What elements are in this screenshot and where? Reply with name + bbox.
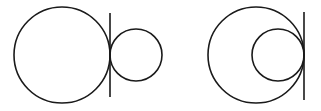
large-circle bbox=[14, 7, 110, 103]
diagram-canvas bbox=[0, 0, 321, 111]
small-circle bbox=[110, 29, 162, 81]
figure-internal-tangency bbox=[208, 7, 304, 103]
small-circle bbox=[252, 29, 304, 81]
figure-external-tangency bbox=[14, 7, 162, 103]
large-circle bbox=[208, 7, 304, 103]
